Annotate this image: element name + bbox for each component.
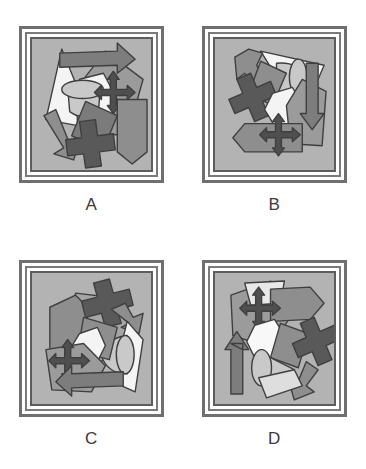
- panel-frame-mid-a: [25, 32, 158, 177]
- block-arrow-shape: [225, 331, 249, 393]
- panel-label-a: A: [19, 195, 164, 215]
- option-panel-d[interactable]: D: [202, 260, 347, 449]
- panel-label-d: D: [202, 429, 347, 449]
- panel-frame-outer-b: [202, 26, 347, 183]
- panel-frame-outer-a: [19, 26, 164, 183]
- panel-frame-mid-c: [25, 266, 158, 411]
- pentagon-arrow-shape: [271, 287, 325, 321]
- panel-frame-inner-c: [30, 271, 153, 406]
- panel-label-c: C: [19, 429, 164, 449]
- panel-frame-inner-b: [213, 37, 336, 172]
- option-panel-c[interactable]: C: [19, 260, 164, 449]
- shape-stage-a: [32, 39, 151, 170]
- panel-frame-mid-d: [208, 266, 341, 411]
- cone-base-ellipse: [116, 335, 134, 373]
- option-panel-a[interactable]: A: [19, 26, 164, 215]
- panel-frame-inner-d: [213, 271, 336, 406]
- pentagon-arrow-shape: [117, 99, 147, 163]
- shape-stage-c: [32, 273, 151, 404]
- shape-stage-d: [215, 273, 334, 404]
- panel-frame-outer-d: [202, 260, 347, 417]
- shape-stage-b: [215, 39, 334, 170]
- panel-frame-inner-a: [30, 37, 153, 172]
- panel-frame-mid-b: [208, 32, 341, 177]
- panel-frame-outer-c: [19, 260, 164, 417]
- option-panel-b[interactable]: B: [202, 26, 347, 215]
- figure-sheet: A: [0, 0, 366, 469]
- panel-label-b: B: [202, 195, 347, 215]
